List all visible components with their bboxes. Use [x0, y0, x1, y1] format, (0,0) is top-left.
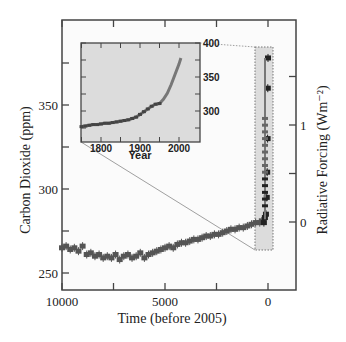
x-tick-label: 0 — [265, 294, 272, 309]
y-axis-label: Carbon Dioxide (ppm) — [18, 106, 34, 234]
inset-y-tick-label: 400 — [203, 38, 220, 49]
right-y-tick-label: 0 — [300, 215, 307, 230]
y-tick-label: 250 — [39, 266, 59, 281]
inset-x-axis-label: Year — [128, 149, 152, 161]
co2-chart: 250300350 1000050000 01 180019002000 300… — [0, 0, 346, 342]
y-axis-label-right: Radiative Forcing (Wm⁻²) — [315, 85, 331, 235]
x-axis-label: Time (before 2005) — [117, 311, 226, 327]
inset-y-tick-label: 350 — [203, 72, 220, 83]
inset-plot-area — [81, 43, 200, 142]
y-tick-label: 300 — [39, 182, 59, 197]
inset-x-tick-label: 1800 — [90, 143, 113, 154]
x-tick-label: 10000 — [46, 294, 79, 309]
right-y-tick-label: 1 — [300, 118, 307, 133]
inset-y-tick-label: 300 — [203, 106, 220, 117]
y-tick-label: 350 — [39, 98, 59, 113]
inset-x-tick-label: 2000 — [168, 143, 191, 154]
x-tick-label: 5000 — [152, 294, 178, 309]
